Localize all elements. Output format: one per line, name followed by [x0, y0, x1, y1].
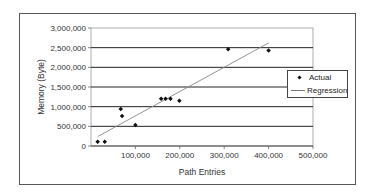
data-point — [177, 99, 182, 104]
x-tick-label: 300,000 — [210, 151, 239, 160]
regression-line — [98, 43, 269, 137]
y-tick-label: 3,000,000 — [50, 24, 86, 33]
x-tick-label: 500,000 — [299, 151, 328, 160]
legend-item-regression: Regression — [288, 84, 347, 97]
y-axis-title: Memory (Byte) — [36, 59, 46, 115]
x-tick-label: 200,000 — [165, 151, 194, 160]
data-point — [95, 139, 100, 144]
y-tick-label: 1,000,000 — [50, 103, 86, 112]
data-point — [120, 114, 125, 119]
x-tick-label: 400,000 — [254, 151, 283, 160]
x-tick-label: 100,000 — [121, 151, 150, 160]
y-tick-label: 2,500,000 — [50, 44, 86, 53]
y-tick-label: 1,500,000 — [50, 83, 86, 92]
legend-item-actual: Actual — [288, 71, 347, 84]
data-point — [159, 97, 164, 102]
x-axis-title: Path Entries — [179, 167, 225, 177]
y-tick-label: 500,000 — [57, 122, 86, 131]
legend-label: Actual — [309, 73, 331, 82]
line-marker-icon — [291, 90, 305, 91]
data-point — [266, 48, 271, 53]
y-tick-label: 2,000,000 — [50, 63, 86, 72]
legend-label: Regression — [307, 86, 347, 95]
chart-legend: Actual Regression — [287, 70, 348, 98]
data-point — [103, 139, 108, 144]
y-tick-label: 0 — [82, 142, 87, 151]
data-point — [118, 107, 123, 112]
diamond-marker-icon — [291, 76, 307, 79]
